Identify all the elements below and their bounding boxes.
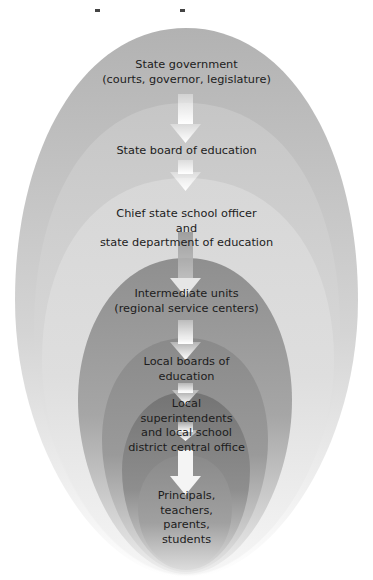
label-principals: Principals, teachers, parents, students [0, 489, 373, 547]
label-intermediate-units: Intermediate units (regional service cen… [0, 287, 373, 316]
label-chief-officer: Chief state school officer and state dep… [0, 207, 373, 251]
label-state-board: State board of education [0, 144, 373, 159]
label-state-government: State government (courts, governor, legi… [0, 58, 373, 87]
education-governance-diagram: State government (courts, governor, legi… [0, 0, 373, 580]
label-local-superintendents: Local superintendents and local school d… [0, 397, 373, 455]
label-local-boards: Local boards of education [0, 355, 373, 384]
